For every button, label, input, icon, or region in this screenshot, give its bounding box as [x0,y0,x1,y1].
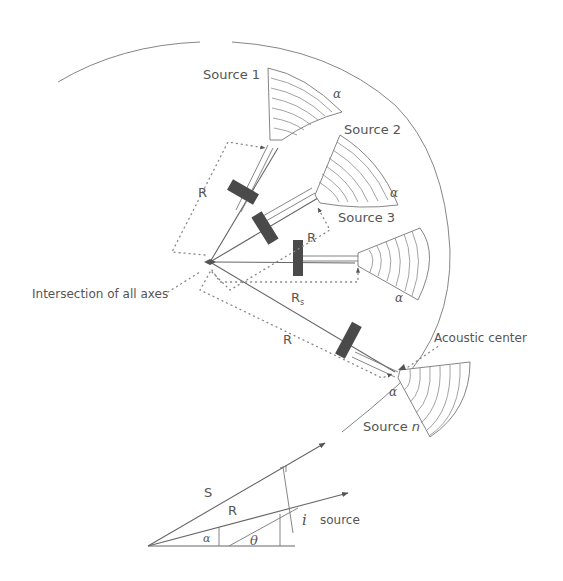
source-3-block [293,240,303,276]
source-2-label: Source 2 [344,122,401,137]
inset-s-label: S [204,485,212,500]
reference-arc [58,42,450,432]
acoustic-source-array-diagram: Source 1 α Source 2 α [0,0,563,581]
inset-i-label: i [302,511,307,529]
acoustic-center-pointer [398,364,406,370]
distance-label-r2: R [307,230,316,245]
source-1-block [227,179,259,204]
source-n-label: Source n [363,419,420,434]
distance-label-r1: R [198,185,207,200]
inset-alpha-label: α [203,532,211,545]
inset-source-label: source [320,513,360,527]
source-2-alpha: α [390,186,398,200]
source-1-label: Source 1 [203,67,260,82]
intersection-callout: Intersection of all axes [32,287,168,301]
source-n-alpha: α [389,385,397,399]
inset-theta-label: θ [250,533,258,548]
inset-r-label: R [228,503,237,518]
source-3: Source 3 α [293,210,430,305]
source-3-label: Source 3 [338,210,395,225]
acoustic-center-callout: Acoustic center [434,331,527,345]
source-3-alpha: α [395,291,403,305]
distance-label-r3: Rs [291,290,304,307]
inset-angle-diagram: S R α θ i source [148,443,360,548]
distance-label-rn: R [283,332,292,347]
source-1-alpha: α [333,87,341,101]
